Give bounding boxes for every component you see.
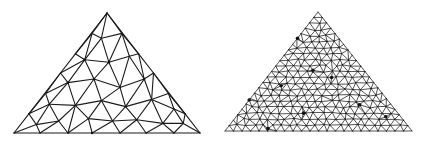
refined-mesh-edge — [340, 59, 349, 60]
refined-mesh-edge — [332, 66, 336, 71]
refined-mesh-edge — [307, 102, 309, 108]
refined-mesh-edge — [321, 102, 325, 107]
refined-mesh-edge — [304, 53, 310, 60]
refined-mesh-edge — [280, 55, 284, 60]
coarse-mesh-edge — [49, 104, 75, 105]
refined-mesh-edge — [310, 77, 315, 83]
refined-mesh-edge — [304, 60, 310, 66]
refined-mesh-edge — [305, 77, 310, 83]
refined-mesh-edge — [330, 120, 336, 125]
coarse-mesh-edge — [61, 54, 76, 73]
refined-mesh-edge — [304, 47, 307, 53]
refined-mesh-edge — [306, 125, 314, 126]
refined-mesh-edge — [395, 119, 404, 120]
refined-mesh-edge — [306, 108, 309, 113]
refined-mesh-edge — [308, 89, 317, 90]
refined-mesh-edge — [403, 120, 407, 125]
refined-mesh-edge — [371, 82, 373, 88]
refined-mesh-edge — [267, 72, 271, 77]
coarse-mesh-edge — [185, 114, 200, 133]
refined-mesh-edge — [286, 77, 287, 83]
refined-mesh-edge — [306, 113, 310, 119]
refined-mesh-edge — [360, 89, 371, 90]
coarse-mesh-edge — [94, 62, 109, 79]
refined-mesh-edge — [302, 107, 309, 108]
refined-mesh-edge — [324, 41, 327, 48]
refined-mesh-edge — [324, 48, 331, 49]
refined-mesh-edge — [313, 112, 318, 119]
refined-mesh-edge — [304, 54, 305, 61]
refined-mesh-node — [302, 111, 306, 115]
refined-mesh-edge — [324, 119, 326, 124]
refined-mesh-edge — [294, 59, 299, 66]
refined-mesh-edge — [349, 119, 354, 125]
refined-mesh-edge — [297, 120, 302, 125]
coarse-mesh-edge — [120, 120, 137, 133]
refined-mesh-edge — [315, 125, 324, 126]
refined-mesh-edge — [310, 59, 316, 66]
refined-mesh-edge — [267, 113, 270, 119]
refined-mesh-edge — [312, 36, 319, 41]
refined-mesh-edge — [294, 118, 297, 124]
refined-mesh-edge — [245, 125, 255, 126]
refined-mesh-edge — [345, 77, 348, 84]
refined-mesh-edge — [303, 36, 310, 42]
coarse-mesh-edge — [152, 93, 169, 99]
refined-mesh-edge — [336, 125, 342, 131]
refined-mesh-edge — [298, 59, 300, 66]
coarse-mesh-edge — [174, 123, 183, 133]
coarse-mesh-edge — [154, 73, 186, 114]
refined-mesh-edge — [315, 23, 320, 30]
refined-mesh-edge — [317, 102, 321, 108]
refined-mesh-edge — [293, 53, 298, 59]
refined-mesh-edge — [281, 119, 284, 124]
refined-mesh-edge — [279, 95, 280, 101]
refined-mesh-edge — [370, 101, 372, 108]
refined-mesh-node — [296, 36, 300, 40]
refined-mesh-edge — [302, 83, 305, 88]
refined-mesh-edge — [326, 89, 332, 95]
refined-mesh-edge — [302, 126, 307, 131]
refined-mesh-edge — [349, 102, 350, 107]
refined-mesh-edge — [352, 77, 355, 82]
coarse-mesh-edge — [163, 123, 174, 133]
refined-mesh-edge — [338, 89, 339, 94]
refined-mesh-edge — [387, 125, 391, 131]
refined-mesh-edge — [278, 107, 280, 114]
refined-mesh-edge — [280, 101, 283, 106]
refined-mesh-edge — [306, 126, 310, 131]
coarse-mesh-edge — [101, 87, 120, 100]
refined-mesh-edge — [338, 95, 339, 101]
coarse-mesh-edge — [85, 60, 94, 79]
refined-mesh-edge — [374, 113, 379, 119]
refined-mesh-edge — [307, 47, 316, 48]
refined-mesh-edge — [282, 90, 289, 96]
refined-mesh-edge — [361, 119, 365, 125]
refined-mesh-edge — [304, 95, 306, 101]
refined-mesh-edge — [259, 88, 261, 96]
refined-mesh-edge — [293, 101, 298, 106]
coarse-mesh-edge — [68, 79, 94, 83]
refined-mesh-edge — [315, 42, 319, 48]
refined-mesh-edge — [324, 48, 327, 54]
refined-mesh-edge — [297, 89, 301, 96]
refined-mesh-edge — [358, 124, 365, 125]
refined-mesh-edge — [264, 101, 267, 107]
refined-mesh-edge — [309, 108, 313, 113]
refined-mesh-edge — [375, 125, 378, 131]
refined-mesh-edge — [252, 107, 257, 113]
refined-mesh-edge — [371, 89, 376, 96]
refined-mesh-edge — [291, 96, 297, 101]
refined-mesh-edge — [273, 90, 280, 95]
refined-mesh-edge — [358, 71, 362, 76]
refined-mesh-edge — [249, 113, 257, 120]
refined-mesh-edge — [267, 101, 274, 106]
refined-mesh-edge — [310, 72, 313, 78]
refined-mesh-edge — [336, 107, 344, 108]
refined-mesh-edge — [332, 112, 335, 119]
refined-mesh-edge — [376, 95, 381, 102]
coarse-mesh-edge — [88, 119, 112, 121]
refined-mesh-edge — [369, 96, 373, 100]
refined-mesh-edge — [301, 71, 308, 78]
refined-mesh-edge — [333, 47, 339, 53]
